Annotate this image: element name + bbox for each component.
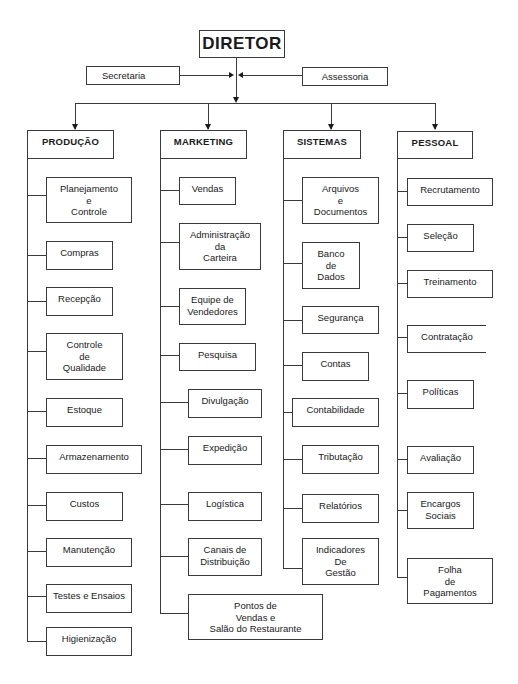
assessoria-box: Assessoria [302,67,388,86]
unit-expedicao: Expedição [188,436,262,465]
secretaria-arrow-icon [229,72,234,78]
unit-compras: Compras [46,241,113,270]
pessoal-spine [397,159,398,577]
producao-tick [27,641,46,642]
unit-manutencao: Manutenção [46,538,132,567]
unit-armazenamento: Armazenamento [46,445,142,474]
unit-relatorios: Relatórios [302,494,379,523]
producao-tick [27,596,46,597]
assessoria-arrow-icon [238,72,243,78]
sistemas-spine [283,159,284,568]
unit-seguranca: Segurança [302,306,379,334]
marketing-tick [160,449,188,450]
unit-controle-de-qualidade: Controle de Qualidade [46,333,123,380]
producao-tick [27,505,46,506]
sistemas-tick [283,263,302,264]
director-box: DIRETOR [199,30,285,58]
marketing-tick [160,355,179,356]
producao-tick [27,195,46,196]
sistemas-tick [283,320,302,321]
unit-tributacao: Tributação [302,445,379,474]
sistemas-tick [283,508,302,509]
dept-marketing: MARKETING [160,130,247,159]
department-bus [75,103,436,104]
producao-tick [27,351,46,352]
unit-selecao: Seleção [407,224,474,252]
unit-divulgacao: Divulgação [188,389,262,418]
unit-pesquisa: Pesquisa [179,343,256,371]
marketing-tick [160,190,179,191]
marketing-tick [160,556,188,557]
unit-treinamento: Treinamento [407,270,493,298]
secretaria-box: Secretaria [86,66,180,85]
unit-equipe-de-vendedores: Equipe de Vendedores [179,288,246,325]
unit-canais-de-distribuicao: Canais de Distribuição [188,538,262,576]
sistemas-tick [283,459,302,460]
pessoal-tick [397,577,407,578]
unit-recrutamento: Recrutamento [407,178,493,206]
unit-logistica: Logística [188,492,262,521]
marketing-tick [160,613,188,614]
unit-estoque: Estoque [46,398,123,427]
unit-higienizacao: Higienização [46,627,132,656]
marketing-tick [160,402,188,403]
marketing-tick [160,504,188,505]
unit-contratacao: Contratação [407,325,486,353]
pessoal-tick [397,393,407,394]
dept-pessoal: PESSOAL [397,131,473,159]
unit-contabilidade: Contabilidade [292,398,379,427]
unit-testes-e-ensaios: Testes e Ensaios [46,584,132,613]
unit-politicas: Políticas [407,380,474,409]
marketing-tick [160,242,179,243]
assessoria-connector [243,75,302,76]
producao-tick [27,551,46,552]
pessoal-tick [397,237,407,238]
unit-recepcao: Recepção [46,287,113,316]
dept-sistemas: SISTEMAS [283,130,361,159]
sistemas-tick [283,568,302,569]
pessoal-tick [397,459,407,460]
sistemas-tick [283,365,302,366]
sistemas-tick [283,412,292,413]
producao-tick [27,411,46,412]
unit-folha-de-pagamentos: Folha de Pagamentos [407,558,493,604]
producao-spine [27,159,28,641]
unit-encargos-sociais: Encargos Sociais [407,492,474,529]
unit-administracao-da-carteira: Administração da Carteira [179,223,261,270]
producao-tick [27,255,46,256]
director-connector [236,58,237,98]
pessoal-tick [397,283,407,284]
producao-tick [27,301,46,302]
secretaria-connector [180,75,230,76]
unit-contas: Contas [302,352,369,381]
unit-custos: Custos [46,492,123,521]
unit-arquivos-e-documentos: Arquivos e Documentos [302,177,379,224]
marketing-tick [160,306,179,307]
marketing-spine [160,159,161,613]
pessoal-tick [397,191,407,192]
unit-banco-de-dados: Banco de Dados [302,242,360,289]
unit-planejamento-e-controle: Planejamento e Controle [46,177,132,223]
dept-producao: PRODUÇÃO [27,130,114,159]
pessoal-arrow-icon [432,124,438,130]
producao-tick [27,458,46,459]
unit-pontos-de-vendas: Pontos de Vendas e Salão do Restaurante [188,594,323,640]
unit-avaliacao: Avaliação [407,446,474,474]
sistemas-tick [283,200,302,201]
pessoal-tick [397,510,407,511]
unit-vendas: Vendas [179,177,236,205]
pessoal-tick [397,337,407,338]
unit-indicadores-de-gestao: Indicadores De Gestão [302,538,379,585]
